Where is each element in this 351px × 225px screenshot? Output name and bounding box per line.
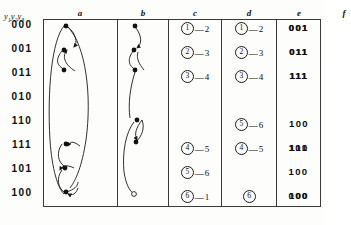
cell-d-row0: 1—2 bbox=[222, 22, 276, 35]
cell-d-row1: 2—3 bbox=[222, 46, 276, 59]
cell-f-row2: 111 bbox=[277, 70, 321, 81]
cell-c-row1: 2—3 bbox=[169, 46, 221, 59]
circled-number: 3 bbox=[235, 70, 248, 83]
node-b-row0 bbox=[133, 24, 138, 29]
circled-number: 4 bbox=[181, 142, 194, 155]
circled-number: 2 bbox=[181, 46, 194, 59]
circled-number: 6 bbox=[243, 190, 256, 203]
edge-b-mid bbox=[129, 72, 135, 118]
circled-number: 2 bbox=[235, 46, 248, 59]
target-number: 5 bbox=[259, 144, 264, 154]
target-number: 1 bbox=[205, 192, 210, 202]
circled-number: 1 bbox=[181, 22, 194, 35]
dash: — bbox=[194, 72, 205, 82]
dash: — bbox=[194, 168, 205, 178]
cell-f-row7: 100 bbox=[277, 190, 321, 201]
target-number: 6 bbox=[205, 168, 210, 178]
cell-d-row7: 6 bbox=[222, 190, 276, 203]
target-number: 3 bbox=[205, 48, 210, 58]
cell-c-row2: 3—4 bbox=[169, 70, 221, 83]
target-number: 2 bbox=[205, 24, 210, 34]
circled-number: 5 bbox=[181, 166, 194, 179]
target-number: 6 bbox=[259, 120, 264, 130]
cell-c-row6: 5—6 bbox=[169, 166, 221, 179]
node-b-row4 bbox=[135, 118, 140, 123]
cell-f-row1: 011 bbox=[277, 46, 321, 57]
cell-c-row0: 1—2 bbox=[169, 22, 221, 35]
cell-f-row5: 110 bbox=[277, 142, 321, 153]
node-b-row5 bbox=[134, 140, 139, 145]
target-number: 2 bbox=[259, 24, 264, 34]
circled-number: 1 bbox=[235, 22, 248, 35]
cell-d-row4: 5—6 bbox=[222, 118, 276, 131]
edge-b-long bbox=[123, 122, 134, 193]
target-number: 4 bbox=[205, 72, 210, 82]
circled-number: 4 bbox=[235, 142, 248, 155]
dash: — bbox=[194, 192, 205, 202]
column-header-f: f bbox=[322, 8, 351, 18]
circled-number: 6 bbox=[181, 190, 194, 203]
dash: — bbox=[248, 144, 259, 154]
target-number: 5 bbox=[205, 144, 210, 154]
dash: — bbox=[248, 24, 259, 34]
circled-number: 3 bbox=[181, 70, 194, 83]
node-b-row7-open bbox=[132, 192, 137, 197]
cell-f-row4: 100 bbox=[277, 118, 321, 129]
dash: — bbox=[194, 144, 205, 154]
dash: — bbox=[248, 120, 259, 130]
circled-number: 5 bbox=[235, 118, 248, 131]
node-b-row2 bbox=[133, 68, 138, 73]
cell-c-row7: 6—1 bbox=[169, 190, 221, 203]
edge-b-3-up bbox=[137, 52, 144, 70]
cell-f-row0: 001 bbox=[277, 22, 321, 33]
target-number: 4 bbox=[259, 72, 264, 82]
target-number: 3 bbox=[259, 48, 264, 58]
dash: — bbox=[194, 24, 205, 34]
edge-b-5-to-6 bbox=[136, 120, 142, 140]
cell-d-row5: 4—5 bbox=[222, 142, 276, 155]
dash: — bbox=[248, 48, 259, 58]
node-b-row1 bbox=[132, 48, 137, 53]
edge-b-2-to-3 bbox=[129, 51, 133, 68]
cell-e-row6: 100 bbox=[276, 166, 321, 177]
edge-b-1-to-2 bbox=[136, 28, 141, 48]
dash: — bbox=[194, 48, 205, 58]
dash: — bbox=[248, 72, 259, 82]
cell-c-row5: 4—5 bbox=[169, 142, 221, 155]
cell-d-row2: 3—4 bbox=[222, 70, 276, 83]
